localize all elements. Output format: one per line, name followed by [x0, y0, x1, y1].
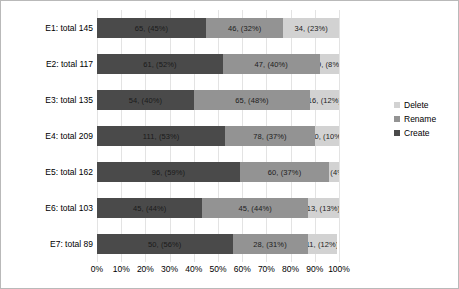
bar-segment-label: 45, (44%) — [133, 204, 166, 213]
bar-segment-label: 78, (37%) — [253, 132, 286, 141]
x-tick-label: 20% — [137, 264, 154, 274]
bar-segment-rename: 46, (32%) — [206, 18, 283, 38]
x-axis-tick-labels: 0%10%20%30%40%50%60%70%80%90%100% — [97, 264, 339, 282]
bar-segment-create: 65, (45%) — [97, 18, 206, 38]
bar-segment-label: 28, (31%) — [253, 240, 286, 249]
bar-segment-label: 11, (12%) — [308, 240, 337, 249]
bar-segment-label: 65, (45%) — [135, 24, 168, 33]
plot-area: 65, (45%)46, (32%)34, (23%)61, (52%)47, … — [97, 10, 339, 262]
bar-segment-rename: 60, (37%) — [240, 162, 330, 182]
bar-segment-label: 60, (37%) — [268, 168, 301, 177]
bar-segment-rename: 28, (31%) — [233, 234, 308, 254]
bar-segment-label: 9, (8%) — [320, 60, 339, 69]
bar-segment-delete: 34, (23%) — [283, 18, 339, 38]
legend-swatch-icon — [394, 116, 400, 122]
bar-segment-label: 6, (4%) — [329, 168, 339, 177]
x-tick-label: 80% — [282, 264, 299, 274]
bar-segment-delete: 11, (12%) — [308, 234, 337, 254]
bar-segment-label: 20, (10%) — [315, 132, 339, 141]
bar-segment-delete: 9, (8%) — [320, 54, 339, 74]
bar-row: 111, (53%)78, (37%)20, (10%) — [97, 126, 339, 146]
gridline — [339, 10, 340, 262]
x-tick-label: 100% — [328, 264, 350, 274]
stacked-bar-chart: E1: total 145E2: total 117E3: total 135E… — [0, 0, 459, 289]
x-tick-label: 10% — [113, 264, 130, 274]
bar-segment-label: 54, (40%) — [129, 96, 162, 105]
legend-item-delete[interactable]: Delete — [394, 98, 458, 111]
legend-item-create[interactable]: Create — [394, 126, 458, 139]
bar-segment-delete: 6, (4%) — [329, 162, 339, 182]
bar-segment-create: 111, (53%) — [97, 126, 225, 146]
x-tick-label: 90% — [306, 264, 323, 274]
category-label: E4: total 209 — [3, 126, 93, 146]
bar-segment-label: 45, (44%) — [238, 204, 271, 213]
bar-row: 65, (45%)46, (32%)34, (23%) — [97, 18, 339, 38]
bar-segment-label: 111, (53%) — [143, 132, 180, 141]
bar-segment-label: 61, (52%) — [143, 60, 176, 69]
category-label: E1: total 145 — [3, 18, 93, 38]
category-axis-labels: E1: total 145E2: total 117E3: total 135E… — [1, 10, 93, 262]
bar-segment-label: 46, (32%) — [228, 24, 261, 33]
bar-row: 50, (56%)28, (31%)11, (12%) — [97, 234, 339, 254]
legend-label: Rename — [404, 114, 436, 124]
legend-label: Create — [404, 128, 430, 138]
bar-segment-rename: 45, (44%) — [202, 198, 307, 218]
bar-segment-rename: 47, (40%) — [223, 54, 320, 74]
bar-segment-create: 61, (52%) — [97, 54, 223, 74]
bar-row: 96, (59%)60, (37%)6, (4%) — [97, 162, 339, 182]
bar-segment-create: 96, (59%) — [97, 162, 240, 182]
bar-segment-label: 34, (23%) — [294, 24, 327, 33]
bar-segment-rename: 78, (37%) — [225, 126, 315, 146]
category-label: E2: total 117 — [3, 54, 93, 74]
bar-rows: 65, (45%)46, (32%)34, (23%)61, (52%)47, … — [97, 10, 339, 262]
bar-segment-rename: 65, (48%) — [194, 90, 310, 110]
legend: DeleteRenameCreate — [394, 98, 458, 140]
bar-row: 45, (44%)45, (44%)13, (13%) — [97, 198, 339, 218]
bar-segment-create: 54, (40%) — [97, 90, 194, 110]
bar-segment-label: 47, (40%) — [255, 60, 288, 69]
bar-segment-label: 13, (13%) — [308, 204, 339, 213]
bar-segment-create: 50, (56%) — [97, 234, 233, 254]
legend-item-rename[interactable]: Rename — [394, 112, 458, 125]
legend-swatch-icon — [394, 130, 400, 136]
bar-row: 54, (40%)65, (48%)16, (12%) — [97, 90, 339, 110]
category-label: E5: total 162 — [3, 162, 93, 182]
legend-label: Delete — [404, 100, 429, 110]
category-label: E3: total 135 — [3, 90, 93, 110]
x-tick-label: 50% — [209, 264, 226, 274]
bar-segment-delete: 13, (13%) — [308, 198, 339, 218]
bar-segment-delete: 20, (10%) — [315, 126, 339, 146]
x-tick-label: 70% — [258, 264, 275, 274]
bar-row: 61, (52%)47, (40%)9, (8%) — [97, 54, 339, 74]
bar-segment-label: 65, (48%) — [235, 96, 268, 105]
x-tick-label: 40% — [185, 264, 202, 274]
x-tick-label: 30% — [161, 264, 178, 274]
bar-segment-label: 96, (59%) — [152, 168, 185, 177]
legend-swatch-icon — [394, 102, 400, 108]
x-tick-label: 0% — [91, 264, 103, 274]
bar-segment-create: 45, (44%) — [97, 198, 202, 218]
x-tick-label: 60% — [234, 264, 251, 274]
bar-segment-label: 50, (56%) — [148, 240, 181, 249]
category-label: E6: total 103 — [3, 198, 93, 218]
bar-segment-delete: 16, (12%) — [310, 90, 339, 110]
category-label: E7: total 89 — [3, 234, 93, 254]
bar-segment-label: 16, (12%) — [310, 96, 339, 105]
